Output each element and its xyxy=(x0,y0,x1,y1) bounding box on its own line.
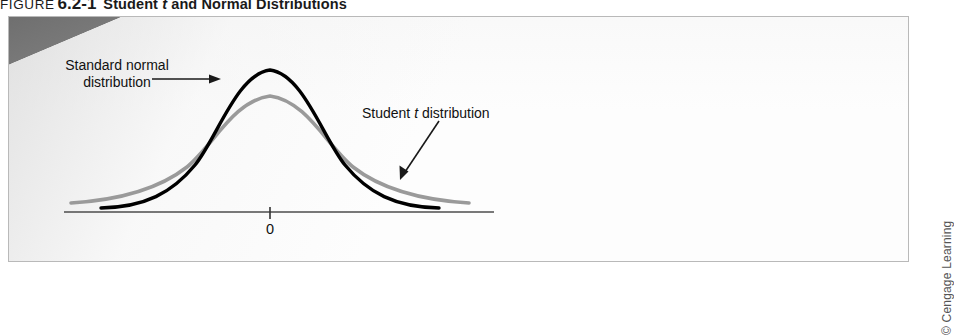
distribution-plot xyxy=(9,17,909,262)
copyright-credit: © Cengage Learning xyxy=(940,221,954,335)
figure-caption-title: Student t and Normal Distributions xyxy=(99,0,346,12)
figure-title-before: Student xyxy=(103,0,162,12)
label-standard-normal-distribution: Standard normal distribution xyxy=(55,57,179,91)
figure-panel: Standard normal distribution Student t d… xyxy=(8,16,909,262)
label-student-t-distribution: Student t distribution xyxy=(362,105,490,122)
label-standard-normal-line1: Standard normal xyxy=(55,57,179,74)
label-student-t-before: Student xyxy=(362,105,414,121)
figure-caption-word: FIGURE xyxy=(0,0,55,12)
label-standard-normal-line2: distribution xyxy=(55,74,179,91)
figure-caption-number: 6.2-1 xyxy=(55,0,100,13)
student-t-arrow xyxy=(400,121,440,180)
label-student-t-after: distribution xyxy=(418,105,490,121)
figure-title-after: and Normal Distributions xyxy=(167,0,347,12)
x-axis-zero-label: 0 xyxy=(258,221,282,237)
figure-caption: FIGURE6.2-1Student t and Normal Distribu… xyxy=(0,0,347,14)
